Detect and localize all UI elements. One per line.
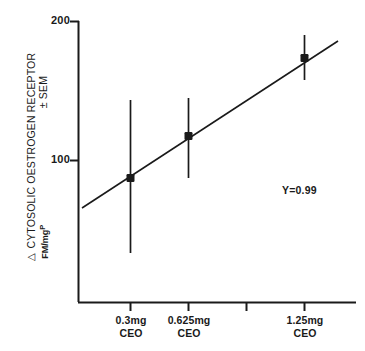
correlation-annotation: Y=0.99 [282, 184, 317, 196]
x-tick-label-2-drug: CEO [149, 327, 229, 340]
x-tick-label-3: 1.25mg CEO [265, 314, 345, 340]
x-tick-label-2: 0.625mg CEO [149, 314, 229, 340]
x-tick-label-1-dose: 0.3mg [116, 314, 147, 326]
regression-line [82, 41, 338, 208]
x-tick-label-2-dose: 0.625mg [168, 314, 211, 326]
x-tick-label-3-drug: CEO [265, 327, 345, 340]
data-point-2 [185, 132, 193, 140]
chart-figure: △ CYTOSOLIC OESTROGEN RECEPTOR ± SEM FM/… [0, 0, 365, 351]
x-tick-label-3-dose: 1.25mg [287, 314, 324, 326]
plot-area [0, 0, 365, 351]
data-point-1 [127, 174, 135, 182]
data-point-3 [301, 54, 309, 62]
